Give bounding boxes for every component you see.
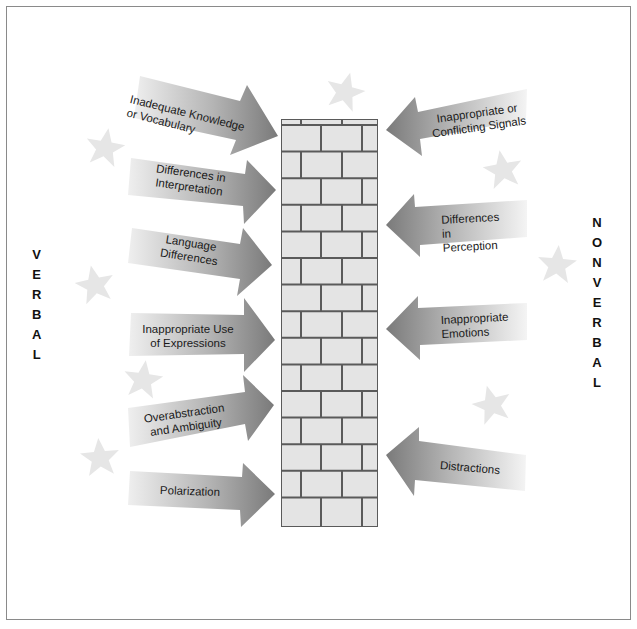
brick-wall	[281, 119, 378, 527]
nonverbal-barrier-label: Differences in Perception	[441, 209, 513, 255]
verbal-barrier-label: Inappropriate Use of Expressions	[132, 322, 244, 350]
nonverbal-barrier-label: Inappropriate Emotions	[440, 309, 521, 341]
